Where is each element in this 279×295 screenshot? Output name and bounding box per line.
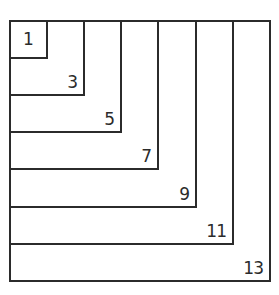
square-label: 9 xyxy=(159,186,189,203)
square-label: 3 xyxy=(47,74,77,91)
square-label: 7 xyxy=(121,148,151,165)
square-label: 11 xyxy=(196,223,226,240)
square-label: 5 xyxy=(84,111,114,128)
square-label: 13 xyxy=(233,260,263,277)
nested-squares-diagram: 131197531 xyxy=(0,0,279,295)
square-label: 1 xyxy=(21,31,35,48)
